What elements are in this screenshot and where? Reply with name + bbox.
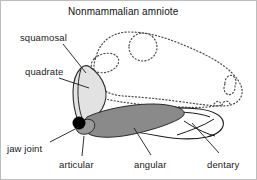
jaw-joint-dot <box>73 117 86 130</box>
leader-line-squamosal <box>63 44 86 73</box>
leader-line-articular <box>82 136 84 156</box>
naris-icon <box>224 75 236 94</box>
label-jaw-joint: jaw joint <box>7 144 42 154</box>
label-dentary: dentary <box>207 160 239 170</box>
figure-container: Nonmammalian amniote squamosal quadrate … <box>0 0 257 180</box>
label-articular: articular <box>59 160 94 170</box>
skull-outline-group <box>91 32 242 107</box>
label-squamosal: squamosal <box>20 33 67 43</box>
figure-title: Nonmammalian amniote <box>68 7 178 17</box>
label-quadrate: quadrate <box>25 67 63 77</box>
leader-line-jaw-joint <box>50 127 79 142</box>
snout-notch <box>214 101 230 105</box>
label-angular: angular <box>134 160 166 170</box>
orbit-icon <box>129 33 157 61</box>
temporal-fenestra-icon <box>91 53 118 73</box>
skull-dotted-outline <box>94 32 242 106</box>
